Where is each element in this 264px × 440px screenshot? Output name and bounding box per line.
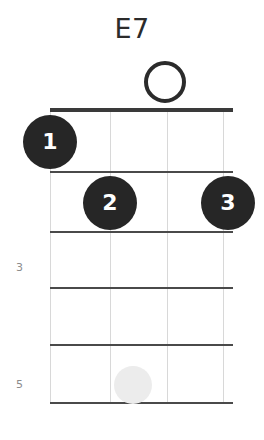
finger-dot-label: 1 bbox=[42, 131, 57, 153]
string-line-4 bbox=[223, 110, 224, 403]
fret-line-2 bbox=[50, 231, 233, 233]
ghost-marker-1 bbox=[114, 366, 152, 404]
fret-number-3: 3 bbox=[7, 262, 23, 274]
finger-dot-2: 2 bbox=[83, 176, 137, 230]
finger-dot-label: 2 bbox=[102, 192, 117, 214]
fretboard: 123 35 bbox=[0, 0, 264, 440]
fret-line-3 bbox=[50, 287, 233, 289]
fret-line-1 bbox=[50, 171, 233, 173]
finger-dot-1: 1 bbox=[23, 115, 77, 169]
finger-dot-label: 3 bbox=[220, 192, 235, 214]
fret-line-4 bbox=[50, 344, 233, 346]
fret-number-5: 5 bbox=[7, 379, 23, 391]
finger-dot-3: 3 bbox=[201, 176, 255, 230]
open-string-marker-1 bbox=[144, 61, 186, 103]
fret-line-5 bbox=[50, 402, 233, 404]
chord-diagram: E7 123 35 bbox=[0, 0, 264, 440]
string-line-2 bbox=[110, 110, 111, 403]
string-line-3 bbox=[167, 110, 168, 403]
nut-line bbox=[50, 108, 233, 112]
